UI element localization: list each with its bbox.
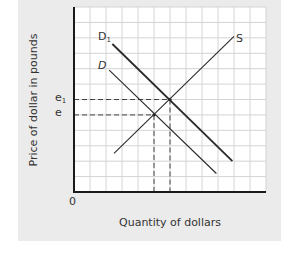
x-axis-label: Quantity of dollars <box>119 216 221 229</box>
y-axis-label: Price of dollar in pounds <box>27 34 40 167</box>
series-label-d1: D1 <box>98 31 111 44</box>
y-tick-label-e: e <box>55 107 62 118</box>
series-label-s: S <box>236 33 243 44</box>
equilibrium-point <box>152 113 155 116</box>
series-label-d: D <box>98 60 106 71</box>
origin-label: 0 <box>69 196 76 207</box>
equilibrium-point <box>168 98 171 101</box>
y-tick-label-e1: e1 <box>55 92 66 105</box>
